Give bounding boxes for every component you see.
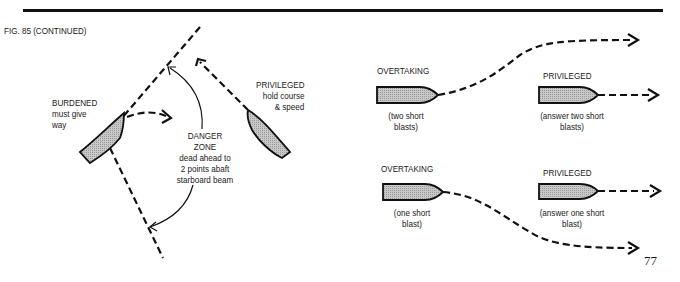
danger-zone-label: DANGER ZONE dead ahead to 2 points abaft…: [158, 130, 252, 185]
privileged-boat: [248, 110, 290, 158]
privileged-track: [200, 62, 248, 110]
burdened-label: BURDENED must give way: [52, 97, 97, 130]
privileged-two-signal: (answer two short blasts): [530, 110, 615, 132]
privileged-two-title: PRIVILEGED: [543, 70, 591, 81]
privileged-boat-two: [539, 87, 598, 103]
burdened-heading-line: [122, 27, 200, 118]
overtaking-one-title: OVERTAKING: [381, 163, 433, 174]
privileged-boat-one: [539, 184, 598, 199]
give-way-path: [127, 113, 168, 118]
overtaking-one-signal: (one short blast): [381, 207, 442, 229]
diagram-art: [0, 0, 680, 282]
overtaking-boat-one: [383, 184, 443, 200]
page-number: 77: [644, 253, 657, 269]
overtaking-two-signal: (two short blasts): [375, 110, 436, 132]
overtake-two-blast-path: [438, 40, 630, 95]
overtaking-two-title: OVERTAKING: [377, 65, 429, 76]
privileged-label: PRIVILEGED hold course & speed: [256, 79, 305, 112]
starboard-beam-line: [110, 148, 163, 258]
overtaking-boat-two: [377, 87, 438, 103]
privileged-one-title: PRIVILEGED: [543, 167, 591, 178]
privileged-one-signal: (answer one short blast): [528, 207, 616, 229]
